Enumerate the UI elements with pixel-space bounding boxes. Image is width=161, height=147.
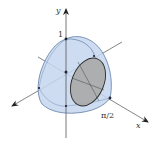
x-axis-label: x [136,121,141,130]
y-tick-one-label: 1 [58,30,63,39]
x-tick-half-pi-label: π/2 [101,111,114,120]
point-x-half-pi [109,97,112,100]
point-y-one [65,38,68,41]
point-top-section [93,55,95,57]
point-origin [65,71,68,74]
point-z [38,87,40,89]
solid-of-revolution-diagram: y 1 π/2 x [0,0,161,147]
y-axis-label: y [55,6,61,15]
point-bottom [65,105,67,107]
